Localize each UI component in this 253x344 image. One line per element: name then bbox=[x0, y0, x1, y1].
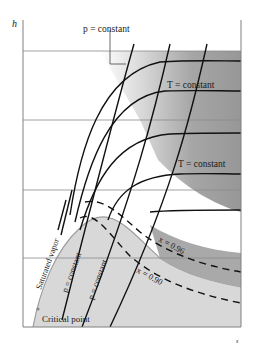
plot-area bbox=[23, 30, 241, 327]
label-t-constant-lower: T = constant bbox=[178, 159, 226, 169]
x-axis-label: s bbox=[236, 338, 239, 344]
mollier-diagram: h s p = constant T = constant T = consta… bbox=[0, 0, 253, 344]
label-p-constant-top: p = constant bbox=[83, 24, 130, 34]
y-axis-label: h bbox=[12, 18, 17, 29]
label-t-constant-upper: T = constant bbox=[167, 80, 215, 90]
critical-point-marker bbox=[36, 307, 39, 310]
label-critical-point: Critical point bbox=[42, 314, 90, 324]
